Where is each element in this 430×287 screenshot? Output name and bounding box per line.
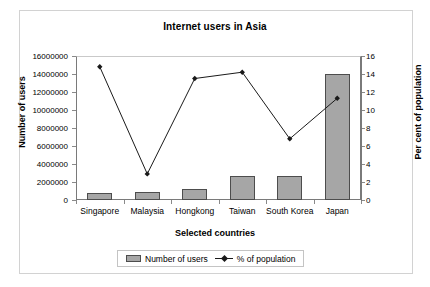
y-axis-right-tick-label: 16 xyxy=(366,52,390,61)
x-axis-tick xyxy=(219,200,220,204)
y-axis-right-tick-label: 4 xyxy=(366,160,390,169)
x-axis-tick-label: Hongkong xyxy=(175,206,214,216)
y-axis-right-tick-label: 10 xyxy=(366,106,390,115)
x-axis-tick-label: Taiwan xyxy=(229,206,255,216)
line-marker xyxy=(192,76,197,81)
line-path xyxy=(100,67,338,174)
legend-item-bars: Number of users xyxy=(126,254,208,264)
x-axis-tick-label: Malaysia xyxy=(130,206,164,216)
x-axis-tick-label: South Korea xyxy=(266,206,313,216)
x-axis-tick-label: Japan xyxy=(326,206,349,216)
bar-swatch-icon xyxy=(126,255,141,262)
y-axis-left-tick-label: 16000000 xyxy=(8,52,68,61)
chart-legend: Number of users % of population xyxy=(117,250,304,267)
y-axis-right-tick-label: 12 xyxy=(366,88,390,97)
x-axis-title: Selected countries xyxy=(0,228,430,238)
chart-title: Internet users in Asia xyxy=(0,21,430,32)
y-axis-right-tick-label: 6 xyxy=(366,142,390,151)
y-axis-left-tick-label: 8000000 xyxy=(8,124,68,133)
y-axis-left-tick-label: 10000000 xyxy=(8,106,68,115)
y-axis-left-tick-label: 12000000 xyxy=(8,88,68,97)
legend-item-line: % of population xyxy=(215,254,296,264)
y-axis-right-tick-label: 2 xyxy=(366,178,390,187)
y-axis-left-tick-label: 14000000 xyxy=(8,70,68,79)
x-axis-tick xyxy=(76,200,77,204)
x-axis-tick xyxy=(314,200,315,204)
legend-label-bars: Number of users xyxy=(145,254,208,264)
x-axis-tick xyxy=(266,200,267,204)
y-axis-right-tick-label: 14 xyxy=(366,70,390,79)
line-marker xyxy=(145,171,150,176)
line-series xyxy=(76,56,361,200)
y-axis-right-tick-label: 0 xyxy=(366,196,390,205)
x-axis-tick xyxy=(171,200,172,204)
y-axis-left-tick-label: 6000000 xyxy=(8,142,68,151)
right-axis-line xyxy=(361,56,362,201)
x-axis-tick-label: Singapore xyxy=(80,206,119,216)
y-axis-left-tick-label: 0 xyxy=(8,196,68,205)
line-marker xyxy=(97,64,102,69)
line-swatch-icon xyxy=(215,255,233,263)
chart-container: Internet users in Asia Number of users P… xyxy=(0,0,430,287)
y-axis-right-tick-label: 8 xyxy=(366,124,390,133)
legend-label-line: % of population xyxy=(237,254,296,264)
y-axis-right-title: Per cent of population xyxy=(413,37,423,187)
x-axis-tick xyxy=(124,200,125,204)
y-axis-left-tick-label: 4000000 xyxy=(8,160,68,169)
y-axis-left-tick-label: 2000000 xyxy=(8,178,68,187)
